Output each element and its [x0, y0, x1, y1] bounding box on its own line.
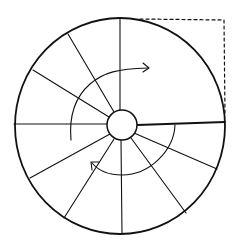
spoke-right	[137, 122, 225, 125]
spoke-lower-right-1	[131, 138, 186, 213]
spoke-upper-left-2	[33, 70, 109, 117]
spoke-lower-right-2	[134, 133, 217, 169]
hub-circle	[107, 110, 137, 140]
spoke-upper-left-1	[68, 34, 114, 112]
spoke-lower-left-1	[30, 134, 110, 178]
spoke-bottom	[121, 140, 122, 234]
upper-arrowhead-icon	[143, 63, 149, 72]
dashed-bounding-corner	[140, 19, 225, 115]
wheel-diagram	[0, 0, 240, 245]
spoke-lower-left-2	[64, 139, 114, 218]
